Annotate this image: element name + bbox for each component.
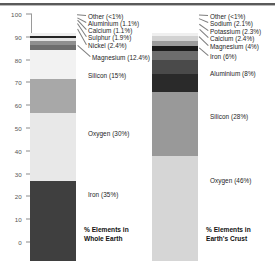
- y-axis-tick-label: 50: [15, 125, 22, 132]
- bar-segment: [30, 50, 76, 78]
- y-axis-tick-label: 90: [15, 33, 22, 40]
- y-axis-tick-label: 100: [11, 11, 22, 18]
- y-axis-tick-label: 70: [15, 79, 22, 86]
- bar-segment: [30, 181, 76, 261]
- bar-segment: [152, 46, 198, 51]
- whole-earth-bar: [30, 0, 76, 261]
- left-chart-title-line1: % Elements in: [84, 225, 129, 234]
- callout-label: Sodium (2.1%): [210, 20, 253, 27]
- inner-label: Iron (35%): [88, 191, 118, 198]
- y-axis-tick-label: 20: [15, 193, 22, 200]
- callout-label: Potassium (2.3%): [210, 27, 261, 34]
- callout-label: Other (<1%): [210, 13, 246, 20]
- inner-label: Oxygen (30%): [88, 130, 129, 137]
- y-axis-tick-label: 60: [15, 102, 22, 109]
- inner-label: Aluminium (8%): [210, 70, 256, 77]
- bar-segment: [30, 36, 76, 39]
- bar-segment: [152, 60, 198, 74]
- right-chart-title-line2: Earth's Crust: [206, 234, 251, 243]
- leader-line: [199, 18, 208, 23]
- bar-segment: [30, 45, 76, 50]
- bar-segment: [152, 74, 198, 92]
- bar-segment: [152, 41, 198, 46]
- y-axis-tick-label: 80: [15, 56, 22, 63]
- bar-segment: [30, 79, 76, 113]
- bar-segment: [30, 33, 76, 35]
- bar-segment: [30, 113, 76, 181]
- leader-line: [199, 15, 208, 16]
- bar-segment: [152, 36, 198, 41]
- earth-crust-bar: [152, 0, 198, 261]
- right-chart-title-line1: % Elements in: [206, 225, 251, 234]
- leader-line: [77, 14, 86, 16]
- callout-label: Iron (6%): [210, 53, 237, 60]
- callout-label: Nickel (2.4%): [88, 41, 127, 48]
- bar-segment: [152, 156, 198, 261]
- callout-label: Magnesium (4%): [210, 42, 259, 49]
- bar-segment: [152, 51, 198, 60]
- callout-label: Calcium (1.1%): [88, 27, 132, 34]
- y-axis-tick-label: 0: [18, 239, 22, 246]
- callout-label: Calcium (2.4%): [210, 35, 254, 42]
- y-axis: 1009080706050403020100: [0, 14, 32, 242]
- leader-line: [199, 47, 209, 56]
- y-axis-tick-label: 30: [15, 170, 22, 177]
- bar-segment: [30, 41, 76, 45]
- callout-label: Aluminium (1.1%): [88, 19, 139, 26]
- inner-label: Oxygen (46%): [210, 177, 251, 184]
- bar-segment: [152, 33, 198, 35]
- inner-label: Silicon (15%): [88, 71, 126, 78]
- bar-segment: [30, 38, 76, 41]
- inner-label: Silicon (28%): [210, 113, 248, 120]
- left-chart-title: % Elements in Whole Earth: [84, 225, 129, 243]
- y-axis-tick-label: 10: [15, 216, 22, 223]
- left-chart-title-line2: Whole Earth: [84, 234, 129, 243]
- callout-label: Sulphur (1.9%): [88, 34, 131, 41]
- callout-label: Magnesium (12.4%): [92, 54, 150, 61]
- bar-segment: [152, 92, 198, 156]
- right-chart-title: % Elements in Earth's Crust: [206, 225, 251, 243]
- y-axis-tick-label: 40: [15, 147, 22, 154]
